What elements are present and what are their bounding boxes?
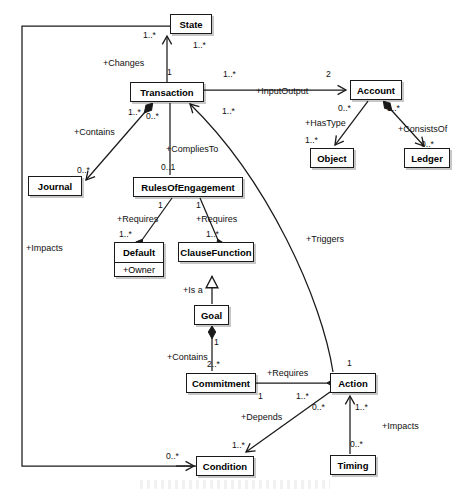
multiplicity-m-account-bl: 0..* — [338, 104, 351, 113]
class-box-transaction[interactable]: Transaction — [130, 82, 204, 102]
multiplicity-m-trans-br: 1..* — [222, 107, 235, 116]
multiplicity-m-state-bottom: 1..* — [193, 41, 206, 50]
class-box-commitment[interactable]: Commitment — [186, 373, 256, 393]
class-attribute: +Owner — [115, 263, 163, 278]
multiplicity-m-ledger-top: 0..* — [421, 140, 434, 149]
edge-depends — [246, 392, 330, 452]
edge-label-lbl-isa: +Is a — [183, 285, 203, 295]
multiplicity-m-account-br: 1..* — [387, 104, 400, 113]
class-box-object[interactable]: Object — [310, 148, 354, 168]
multiplicity-m-condition-left: 0..* — [166, 452, 179, 461]
multiplicity-m-roe-bl: 1 — [158, 201, 163, 210]
class-box-condition[interactable]: Condition — [196, 456, 254, 476]
class-name-journal: Journal — [29, 177, 81, 196]
edge-label-lbl-inputoutput: +InputOutput — [256, 86, 308, 96]
multiplicity-m-trans-b: 0..* — [146, 112, 159, 121]
multiplicity-m-roe-top: 0..1 — [161, 163, 175, 172]
edge-label-lbl-contains-j: +Contains — [74, 127, 115, 137]
edge-label-lbl-hastype: +HasType — [305, 118, 346, 128]
edge-label-lbl-triggers: +Triggers — [306, 234, 344, 244]
class-name-clausefunction: ClauseFunction — [179, 243, 253, 262]
class-box-timing[interactable]: Timing — [330, 455, 376, 475]
class-box-goal[interactable]: Goal — [194, 305, 229, 325]
multiplicity-m-clause-top: 1..* — [206, 230, 219, 239]
class-box-account[interactable]: Account — [350, 80, 402, 100]
edge-label-lbl-requires-3: +Requires — [267, 368, 308, 378]
uml-class-diagram: StateTransactionAccountObjectLedgerJourn… — [0, 0, 468, 493]
class-name-condition: Condition — [197, 457, 253, 476]
class-name-action: Action — [331, 374, 375, 393]
multiplicity-m-goal-bottom: 1 — [214, 338, 219, 347]
class-name-transaction: Transaction — [131, 83, 203, 102]
multiplicity-m-depends-src: 0..* — [312, 403, 325, 412]
class-name-rulesofengagement: RulesOfEngagement — [134, 178, 242, 197]
multiplicity-m-journal-top: 0..* — [77, 166, 90, 175]
edge-contains-journal — [86, 104, 152, 180]
edge-label-lbl-depends: +Depends — [241, 412, 282, 422]
multiplicity-m-state-left: 1..* — [143, 31, 156, 40]
edge-label-lbl-impacts-t: +Impacts — [382, 421, 419, 431]
class-box-rulesofengagement[interactable]: RulesOfEngagement — [133, 177, 243, 197]
class-name-ledger: Ledger — [405, 149, 449, 168]
class-name-object: Object — [311, 149, 353, 168]
edge-label-lbl-impacts-left: +Impacts — [26, 243, 63, 253]
multiplicity-m-object-top: 1..* — [305, 136, 318, 145]
class-name-commitment: Commitment — [187, 374, 255, 393]
multiplicity-m-action-left: 1..* — [296, 392, 309, 401]
class-name-default: Default — [115, 243, 163, 262]
edge-label-lbl-changes: +Changes — [103, 58, 144, 68]
multiplicity-m-default-top: 1..* — [119, 230, 132, 239]
multiplicity-m-account-top: 2 — [326, 70, 331, 79]
edge-label-lbl-consistsof: +ConsistsOf — [398, 124, 447, 134]
class-name-state: State — [171, 15, 211, 34]
class-name-goal: Goal — [195, 306, 228, 325]
class-box-default[interactable]: Default+Owner — [114, 242, 164, 277]
edge-label-lbl-requires-2: +Requires — [196, 214, 237, 224]
multiplicity-m-condition-top: 1..* — [232, 441, 245, 450]
class-box-state[interactable]: State — [170, 14, 212, 34]
multiplicity-m-action-below: 1..* — [355, 403, 368, 412]
multiplicity-m-action-topline: 1 — [347, 359, 352, 368]
edge-label-lbl-requires-1: +Requires — [117, 214, 158, 224]
multiplicity-m-timing-top: 0..* — [350, 440, 363, 449]
multiplicity-m-trans-top: 1 — [167, 68, 172, 77]
class-box-journal[interactable]: Journal — [28, 176, 82, 196]
multiplicity-m-roe-br: 1 — [196, 201, 201, 210]
page-artifact — [140, 480, 330, 489]
class-box-action[interactable]: Action — [330, 373, 376, 393]
class-name-account: Account — [351, 81, 401, 100]
multiplicity-m-commit-top: 2..* — [207, 360, 220, 369]
edge-label-lbl-contains-c: +Contains — [167, 352, 208, 362]
multiplicity-m-trans-bl: 1..* — [128, 108, 141, 117]
class-box-clausefunction[interactable]: ClauseFunction — [178, 242, 254, 262]
edge-label-lbl-compliesto: +CompliesTo — [166, 144, 218, 154]
class-name-timing: Timing — [331, 456, 375, 475]
class-box-ledger[interactable]: Ledger — [404, 148, 450, 168]
multiplicity-m-trans-right: 1..* — [223, 70, 236, 79]
class-attributes-default: +Owner — [115, 262, 163, 278]
multiplicity-m-commit-right: 1 — [258, 392, 263, 401]
